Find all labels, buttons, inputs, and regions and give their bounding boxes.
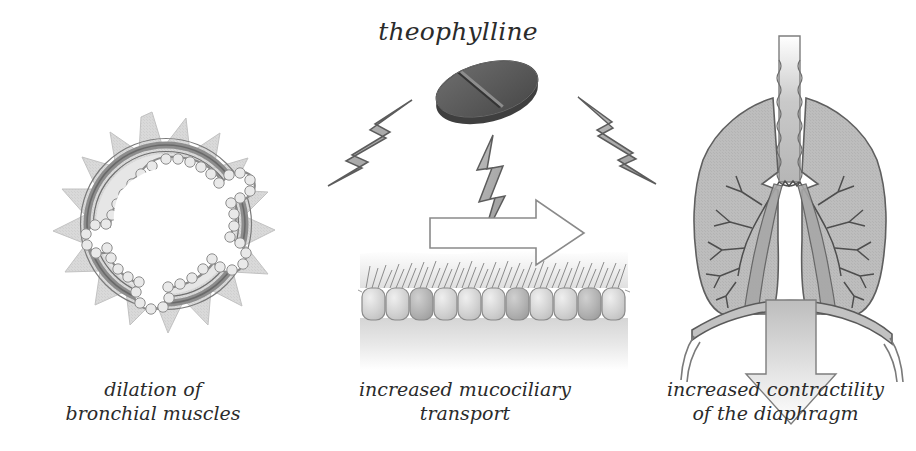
drug-name-label: theophylline (358, 16, 558, 47)
trachea (779, 36, 800, 182)
caption-bronchus: dilation of bronchial muscles (18, 378, 288, 426)
caption-diaphragm: increased contractility of the diaphragm (638, 378, 913, 426)
bronchus-cross-section (53, 112, 275, 333)
submucosa (360, 318, 628, 370)
lungs-and-diaphragm (681, 36, 903, 424)
lightning-bolt-right (578, 97, 656, 184)
diagram-canvas: theophylline dilation of bronchial muscl… (0, 0, 916, 451)
theophylline-tablet (430, 51, 543, 134)
caption-mucociliary: increased mucociliary transport (330, 378, 600, 426)
lightning-bolt-left (328, 100, 412, 186)
epithelial-cells (362, 288, 625, 320)
ciliated-epithelium (358, 250, 630, 370)
